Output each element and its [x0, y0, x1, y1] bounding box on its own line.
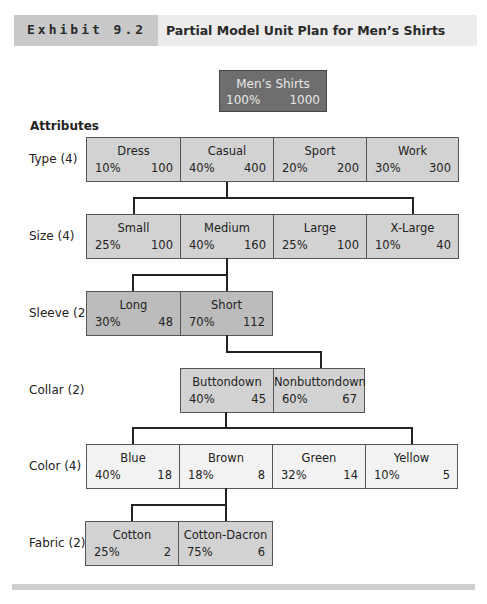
node-percent: 75% [187, 545, 213, 559]
node-name: Yellow [366, 451, 457, 465]
row-label-type: Type (4) [29, 152, 77, 166]
node-type-sport: Sport20%200 [273, 137, 367, 182]
node-percent: 100% [226, 93, 260, 107]
node-percent: 10% [374, 468, 400, 482]
node-percent: 25% [95, 238, 121, 252]
connector [133, 197, 135, 214]
node-collar-buttondown: Buttondown40%45 [180, 368, 274, 413]
connector [133, 197, 414, 199]
node-count: 100 [151, 161, 173, 175]
node-count: 112 [243, 315, 265, 329]
node-count: 40 [436, 238, 451, 252]
node-count: 45 [251, 392, 266, 406]
node-percent: 60% [282, 392, 308, 406]
node-percent: 40% [189, 392, 215, 406]
node-count: 160 [244, 238, 266, 252]
exhibit-title: Partial Model Unit Plan for Men’s Shirts [166, 23, 445, 38]
node-percent: 30% [375, 161, 401, 175]
node-color-green: Green32%14 [272, 444, 366, 489]
node-name: Small [87, 221, 180, 235]
node-percent: 40% [189, 238, 215, 252]
node-name: Work [367, 144, 458, 158]
node-count: 1000 [289, 93, 320, 107]
node-name: Nonbuttondown [274, 375, 364, 389]
node-percent: 18% [188, 468, 214, 482]
row-label-color: Color (4) [29, 459, 81, 473]
node-count: 100 [151, 238, 173, 252]
node-fabric-cotton: Cotton25%2 [85, 521, 179, 566]
node-name: Casual [181, 144, 273, 158]
node-percent: 30% [95, 315, 121, 329]
node-type-casual: Casual40%400 [180, 137, 274, 182]
connector [226, 274, 228, 291]
node-name: Dress [87, 144, 180, 158]
connector [225, 504, 227, 521]
connector [226, 258, 228, 275]
node-name: Blue [87, 451, 179, 465]
root-node: Men’s Shirts 100% 1000 [219, 70, 327, 112]
node-fabric-cotton-dacron: Cotton-Dacron75%6 [178, 521, 273, 566]
connector [412, 197, 414, 214]
node-percent: 40% [189, 161, 215, 175]
node-name: Brown [180, 451, 272, 465]
node-percent: 25% [94, 545, 120, 559]
node-name: Large [274, 221, 366, 235]
node-count: 6 [258, 545, 265, 559]
node-name: Cotton-Dacron [179, 528, 272, 542]
node-color-blue: Blue40%18 [86, 444, 180, 489]
connector [132, 274, 134, 291]
node-name: Buttondown [181, 375, 273, 389]
node-count: 2 [164, 545, 171, 559]
exhibit-number: Exhibit 9.2 [27, 22, 146, 37]
node-count: 48 [158, 315, 173, 329]
node-type-work: Work30%300 [366, 137, 459, 182]
node-count: 5 [443, 468, 450, 482]
node-name: Cotton [86, 528, 178, 542]
node-count: 14 [343, 468, 358, 482]
node-size-small: Small25%100 [86, 214, 181, 259]
node-collar-nonbuttondown: Nonbuttondown60%67 [273, 368, 365, 413]
connector [132, 427, 413, 429]
node-name: Green [273, 451, 365, 465]
node-count: 200 [337, 161, 359, 175]
node-percent: 25% [282, 238, 308, 252]
node-name: Long [87, 298, 180, 312]
node-color-brown: Brown18%8 [179, 444, 273, 489]
connector [132, 274, 228, 276]
row-label-fabric: Fabric (2) [29, 536, 85, 550]
node-percent: 32% [281, 468, 307, 482]
connector [225, 488, 227, 505]
node-size-large: Large25%100 [273, 214, 367, 259]
node-color-yellow: Yellow10%5 [365, 444, 458, 489]
node-count: 8 [258, 468, 265, 482]
node-count: 100 [337, 238, 359, 252]
node-percent: 10% [95, 161, 121, 175]
node-sleeve-long: Long30%48 [86, 291, 181, 336]
node-percent: 10% [375, 238, 401, 252]
attributes-heading: Attributes [30, 119, 99, 133]
connector [132, 427, 134, 444]
connector [131, 504, 133, 521]
node-percent: 20% [282, 161, 308, 175]
node-size-medium: Medium40%160 [180, 214, 274, 259]
connector [411, 427, 413, 444]
bottom-rule [12, 584, 475, 590]
row-label-sleeve: Sleeve (2) [29, 306, 90, 320]
row-label-collar: Collar (2) [29, 383, 85, 397]
node-name: Medium [181, 221, 273, 235]
node-size-xlarge: X-Large10%40 [366, 214, 459, 259]
node-name: Short [181, 298, 272, 312]
node-count: 18 [157, 468, 172, 482]
node-count: 400 [244, 161, 266, 175]
connector [226, 335, 228, 352]
node-type-dress: Dress10%100 [86, 137, 181, 182]
node-name: X-Large [367, 221, 458, 235]
node-name: Sport [274, 144, 366, 158]
node-percent: 70% [189, 315, 215, 329]
node-count: 300 [429, 161, 451, 175]
connector [226, 351, 322, 353]
node-percent: 40% [95, 468, 121, 482]
row-label-size: Size (4) [29, 229, 74, 243]
connector [320, 351, 322, 368]
node-name: Men’s Shirts [220, 77, 326, 91]
